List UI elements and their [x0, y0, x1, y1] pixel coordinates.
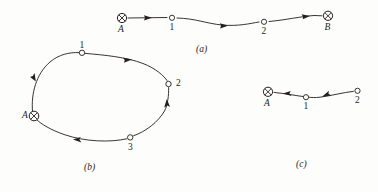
node-c-2	[355, 88, 360, 93]
node-b-A-terminal	[29, 111, 39, 121]
arrowhead-a-1-to-2	[220, 23, 228, 28]
edge-a-1-to-2	[177, 18, 259, 25]
node-label-c-1: 1	[304, 102, 309, 112]
edge-b-1-to-2	[85, 53, 167, 80]
arrowhead-c-1-to-A	[283, 91, 292, 96]
caption-panel-c: (c)	[296, 160, 307, 170]
node-label-c-A: A	[264, 99, 270, 109]
node-label-c-2: 2	[355, 96, 360, 106]
edge-b-3-to-A	[37, 120, 127, 142]
node-a-A-terminal	[117, 13, 126, 22]
caption-panel-a: (a)	[196, 45, 207, 55]
edge-b-A-to-1	[32, 53, 79, 111]
node-b-1	[79, 50, 84, 55]
node-label-b-1: 1	[80, 41, 85, 51]
diagram-vector-layer	[0, 0, 378, 192]
node-c-A-terminal	[263, 87, 272, 96]
edge-b-3-to-2	[134, 88, 169, 136]
node-a-1	[169, 15, 174, 20]
node-c-1	[303, 95, 308, 100]
edge-c-2-to-1	[309, 91, 354, 97]
panel-b-graph	[29, 50, 171, 142]
node-a-B-terminal	[323, 11, 332, 20]
edge-a-2-to-B	[269, 16, 322, 22]
node-label-a-1: 1	[170, 23, 175, 33]
panel-c-graph	[263, 87, 360, 100]
node-label-a-2: 2	[262, 27, 267, 37]
figure-container: A 1 2 B (a) A 1 2 3 (b) A 1 2 (c)	[0, 0, 378, 192]
panel-a-graph	[117, 11, 332, 28]
node-a-2	[261, 19, 266, 24]
arrowhead-b-3-to-2	[164, 99, 170, 107]
node-label-b-2: 2	[176, 79, 181, 89]
node-b-2	[166, 81, 171, 86]
arrowhead-a-A-to-1	[144, 15, 152, 20]
node-label-a-B: B	[325, 23, 331, 33]
node-label-a-A: A	[118, 25, 124, 35]
node-label-b-3: 3	[128, 143, 133, 153]
node-label-b-A: A	[22, 111, 28, 121]
arrowhead-b-A-to-1	[30, 73, 36, 82]
node-b-3	[128, 135, 133, 140]
caption-panel-b: (b)	[84, 163, 95, 173]
